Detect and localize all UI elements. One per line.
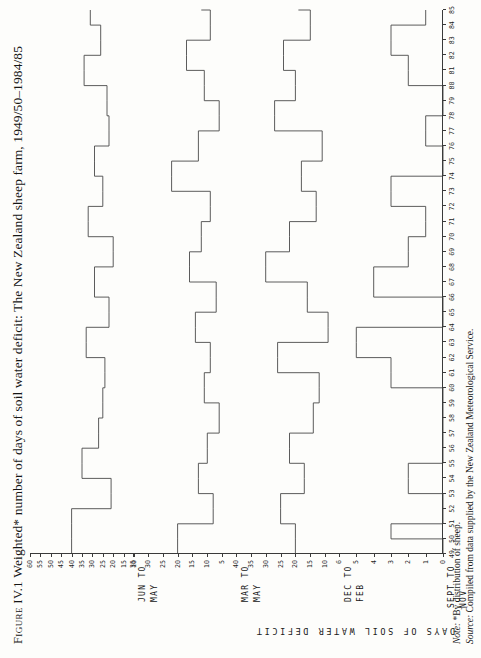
figure-page: Figure IV.1 Weighted* number of days of …	[0, 0, 481, 658]
source-text: Compiled from data supplied by the New Z…	[465, 329, 475, 613]
x-tick-62	[443, 357, 446, 358]
y-tick-mar-to-may-10	[207, 554, 208, 557]
y-tick-label-jun-to-may-15: 15	[120, 560, 128, 578]
x-tick-label-77: 77	[448, 125, 456, 137]
x-tick-label-62: 62	[448, 352, 456, 364]
x-tick-label-71: 71	[448, 216, 456, 228]
y-tick-mar-to-may-35	[133, 554, 134, 557]
x-tick-71	[443, 221, 446, 222]
x-tick-67	[443, 281, 446, 282]
x-tick-label-85: 85	[448, 4, 456, 16]
x-tick-51	[443, 523, 446, 524]
panel-jun-to-may: JUN TO MAY 6055504540353025201510	[30, 0, 138, 658]
note-text: *By distribution of sheep.	[452, 522, 462, 621]
x-tick-60	[443, 387, 446, 388]
y-tick-label-mar-to-may-35: 35	[129, 560, 137, 578]
x-tick-63	[443, 341, 446, 342]
y-tick-label-jun-to-may-60: 60	[26, 560, 34, 578]
x-tick-label-84: 84	[448, 19, 456, 31]
y-tick-sept-to-nov-2	[408, 554, 409, 557]
panel-mar-to-may: MAR TO MAY 3530252015105	[133, 0, 241, 658]
panel-stack: JUN TO MAY 6055504540353025201510 MAR TO…	[0, 0, 481, 658]
x-tick-label-75: 75	[448, 155, 456, 167]
x-tick-55	[443, 462, 446, 463]
y-tick-jun-to-may-60	[30, 554, 31, 557]
x-tick-65	[443, 311, 446, 312]
y-tick-jun-to-may-40	[72, 554, 73, 557]
x-tick-label-59: 59	[448, 397, 456, 409]
x-tick-label-55: 55	[448, 457, 456, 469]
x-axis-line-sept-to-nov	[442, 10, 443, 554]
x-tick-label-56: 56	[448, 442, 456, 454]
x-tick-label-80: 80	[448, 80, 456, 92]
x-tick-label-60: 60	[448, 382, 456, 394]
x-tick-label-70: 70	[448, 231, 456, 243]
x-tick-74	[443, 175, 446, 176]
x-tick-label-81: 81	[448, 64, 456, 76]
y-tick-jun-to-may-15	[124, 554, 125, 557]
x-tick-53	[443, 493, 446, 494]
y-tick-label-mar-to-may-20: 20	[174, 560, 182, 578]
x-tick-label-65: 65	[448, 306, 456, 318]
panel-sept-to-nov: SEPT TO NOV 6543210495051525354555657585…	[339, 0, 469, 658]
y-tick-dec-to-feb-30	[266, 554, 267, 557]
x-tick-label-72: 72	[448, 200, 456, 212]
x-tick-label-63: 63	[448, 336, 456, 348]
y-tick-sept-to-nov-3	[391, 554, 392, 557]
x-tick-69	[443, 251, 446, 252]
source-line: Source: Compiled from data supplied by t…	[465, 329, 475, 644]
step-line-sept-to-nov	[339, 10, 443, 554]
y-tick-mar-to-may-5	[222, 554, 223, 557]
y-tick-sept-to-nov-6	[339, 554, 340, 557]
note-line: Note: *By distribution of sheep.	[452, 522, 462, 644]
y-tick-label-sept-to-nov-4: 4	[370, 560, 378, 578]
y-tick-label-dec-to-feb-30: 30	[262, 560, 270, 578]
y-tick-label-dec-to-feb-20: 20	[291, 560, 299, 578]
y-tick-label-dec-to-feb-15: 15	[306, 560, 314, 578]
plot-area-dec-to-feb: 40353025201510	[236, 10, 340, 554]
x-tick-59	[443, 402, 446, 403]
x-tick-76	[443, 145, 446, 146]
y-tick-label-sept-to-nov-5: 5	[352, 560, 360, 578]
step-path-jun-to-may	[72, 10, 114, 554]
y-tick-label-mar-to-may-30: 30	[144, 560, 152, 578]
y-tick-dec-to-feb-35	[251, 554, 252, 557]
x-tick-label-83: 83	[448, 34, 456, 46]
y-tick-label-mar-to-may-10: 10	[203, 560, 211, 578]
y-tick-label-jun-to-may-30: 30	[88, 560, 96, 578]
x-tick-label-76: 76	[448, 140, 456, 152]
y-tick-mar-to-may-20	[178, 554, 179, 557]
x-tick-56	[443, 447, 446, 448]
x-tick-label-67: 67	[448, 276, 456, 288]
x-tick-82	[443, 54, 446, 55]
step-line-mar-to-may	[133, 10, 237, 554]
x-tick-85	[443, 9, 446, 10]
x-tick-label-64: 64	[448, 321, 456, 333]
y-tick-label-sept-to-nov-6: 6	[335, 560, 343, 578]
x-tick-label-52: 52	[448, 503, 456, 515]
x-tick-54	[443, 477, 446, 478]
y-tick-label-jun-to-may-40: 40	[68, 560, 76, 578]
y-tick-label-mar-to-may-15: 15	[188, 560, 196, 578]
panel-dec-to-feb: DEC TO FEB 40353025201510	[236, 0, 344, 658]
x-tick-64	[443, 326, 446, 327]
y-tick-dec-to-feb-25	[281, 554, 282, 557]
y-tick-mar-to-may-25	[163, 554, 164, 557]
x-tick-52	[443, 508, 446, 509]
y-tick-label-jun-to-may-35: 35	[78, 560, 86, 578]
x-tick-label-57: 57	[448, 427, 456, 439]
x-tick-78	[443, 115, 446, 116]
x-tick-label-74: 74	[448, 170, 456, 182]
x-tick-label-66: 66	[448, 291, 456, 303]
y-tick-label-dec-to-feb-35: 35	[247, 560, 255, 578]
y-tick-sept-to-nov-0	[443, 554, 444, 557]
step-path-sept-to-nov	[356, 10, 443, 554]
step-path-dec-to-feb	[266, 10, 328, 554]
y-tick-jun-to-may-25	[103, 554, 104, 557]
x-tick-58	[443, 417, 446, 418]
x-tick-50	[443, 538, 446, 539]
y-tick-mar-to-may-30	[148, 554, 149, 557]
x-tick-label-54: 54	[448, 472, 456, 484]
step-line-jun-to-may	[30, 10, 134, 554]
y-tick-dec-to-feb-40	[236, 554, 237, 557]
